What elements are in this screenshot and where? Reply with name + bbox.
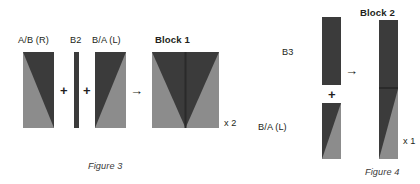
- operator-plus-2: +: [83, 84, 91, 97]
- shape-block-2: [379, 20, 398, 159]
- operator-arrow-2: →: [345, 64, 358, 77]
- shape-ab-r: [23, 52, 54, 128]
- operator-arrow-1: →: [130, 84, 143, 97]
- caption-figure-4: Figure 4: [365, 168, 400, 177]
- label-multiplier-block-1: x 2: [224, 119, 237, 128]
- operator-plus-3: +: [328, 88, 336, 101]
- shape-ba-l-fig3: [95, 52, 126, 128]
- caption-figure-3: Figure 3: [88, 162, 123, 171]
- label-multiplier-block-2: x 1: [403, 137, 416, 146]
- shape-b3: [322, 17, 341, 85]
- shape-ba-l-fig4: [322, 103, 341, 159]
- label-part-ba-l-fig4: B/A (L): [258, 123, 287, 132]
- label-part-ba-l: B/A (L): [92, 36, 121, 45]
- shape-block-1: [152, 52, 219, 128]
- label-part-b3: B3: [282, 48, 293, 57]
- operator-plus-1: +: [60, 84, 68, 97]
- label-block-2: Block 2: [360, 8, 395, 18]
- diagram-canvas: A/B (R) B2 B/A (L) Block 1 + + → x: [0, 0, 420, 184]
- shape-b2: [74, 52, 79, 128]
- label-part-b2: B2: [70, 36, 81, 45]
- label-part-ab-r: A/B (R): [18, 36, 49, 45]
- label-block-1: Block 1: [155, 35, 190, 45]
